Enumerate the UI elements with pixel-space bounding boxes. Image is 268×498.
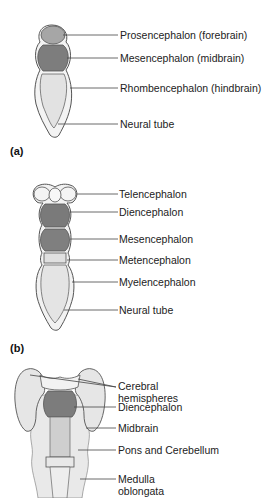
label-diencephalon: Diencephalon (119, 206, 183, 218)
panel-label-a: (a) (10, 145, 23, 157)
panel-label-b: (b) (10, 342, 24, 354)
label-mesencephalon: Mesencephalon (midbrain) (120, 52, 244, 64)
label-pons-cerebellum: Pons and Cerebellum (118, 444, 219, 456)
label-rhombencephalon: Rhombencephalon (hindbrain) (120, 82, 261, 94)
label-myelencephalon: Myelencephalon (119, 276, 195, 288)
label-prosencephalon: Prosencephalon (forebrain) (120, 29, 247, 41)
panel-a: Prosencephalon (forebrain) Mesencephalon… (0, 0, 268, 165)
panel-b: Telencephalon Diencephalon Mesencephalon… (0, 165, 268, 335)
panel-c: Cerebral hemispheres Diencephalon Midbra… (0, 365, 268, 498)
label-oblongata: oblongata (118, 485, 164, 497)
label-midbrain: Midbrain (118, 422, 158, 434)
label-metencephalon: Metencephalon (119, 254, 191, 266)
label-diencephalon: Diencephalon (118, 401, 182, 413)
label-telencephalon: Telencephalon (119, 188, 187, 200)
label-neural-tube: Neural tube (120, 118, 174, 130)
label-neural-tube: Neural tube (119, 304, 173, 316)
label-cerebral: Cerebral (118, 380, 158, 392)
label-mesencephalon: Mesencephalon (119, 233, 193, 245)
label-medulla: Medulla (118, 473, 155, 485)
